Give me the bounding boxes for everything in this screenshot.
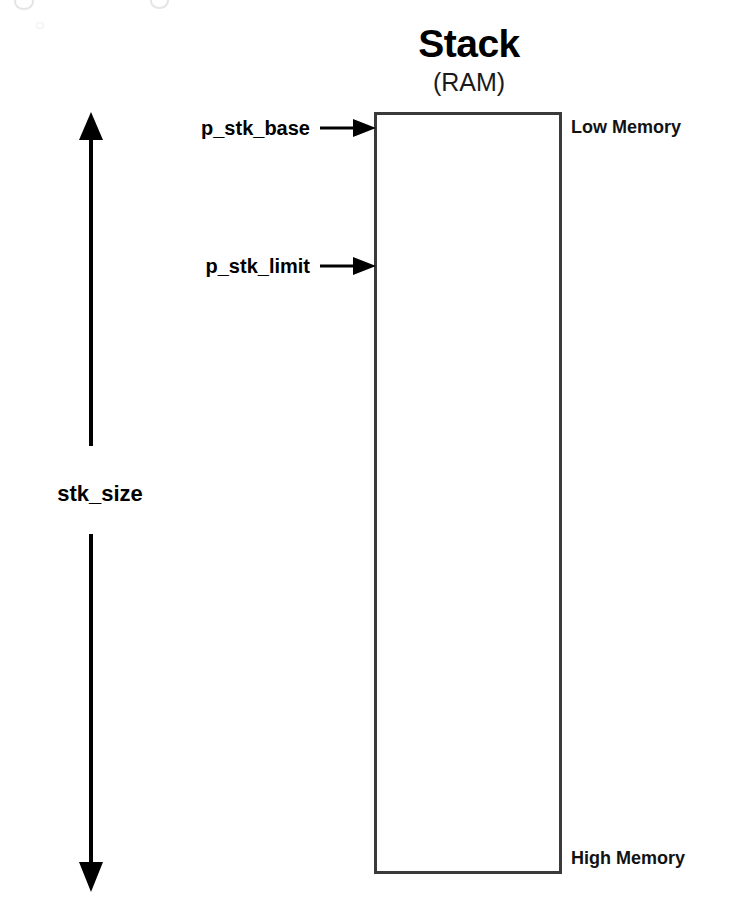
- scan-artifact-icon: [150, 0, 169, 9]
- stack-memory-diagram: Stack (RAM) Low Memory High Memory p_stk…: [0, 0, 734, 903]
- low-memory-label: Low Memory: [571, 118, 681, 136]
- diagram-title: Stack: [374, 24, 564, 63]
- p-stk-limit-label: p_stk_limit: [110, 256, 310, 276]
- p-stk-base-label: p_stk_base: [110, 118, 310, 138]
- diagram-subtitle: (RAM): [374, 70, 564, 95]
- stk-size-label: stk_size: [10, 483, 190, 505]
- p-stk-limit-arrow-icon: [320, 255, 376, 277]
- stack-region-box: [374, 112, 562, 874]
- p-stk-base-arrow-icon: [320, 117, 376, 139]
- scan-artifact-icon: [36, 22, 44, 29]
- high-memory-label: High Memory: [571, 849, 685, 867]
- scan-artifact-icon: [14, 0, 34, 10]
